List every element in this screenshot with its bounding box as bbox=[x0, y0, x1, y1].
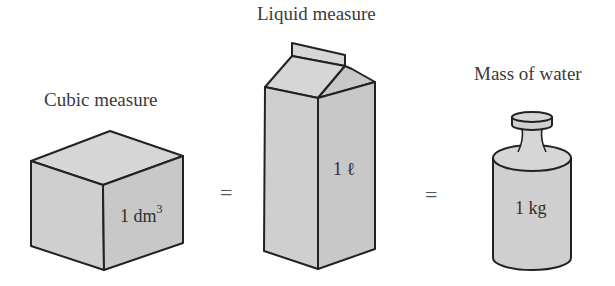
cube-value-text: 1 dm bbox=[120, 206, 157, 226]
cube-value-exponent: 3 bbox=[157, 202, 163, 216]
carton-title: Liquid measure bbox=[257, 3, 376, 25]
weight-illustration bbox=[493, 112, 571, 270]
weight-title: Mass of water bbox=[474, 63, 582, 85]
equals-sign-2: = bbox=[425, 182, 437, 208]
cube-value: 1 dm3 bbox=[120, 204, 163, 227]
figure: Cubic measure Liquid measure Mass of wat… bbox=[0, 0, 615, 286]
equals-sign-1: = bbox=[220, 180, 232, 206]
carton-illustration bbox=[264, 43, 375, 269]
cube-title: Cubic measure bbox=[44, 89, 157, 111]
illustrations bbox=[0, 0, 615, 286]
carton-left-face bbox=[264, 87, 318, 269]
weight-neck bbox=[518, 128, 546, 152]
cube-illustration bbox=[31, 131, 183, 270]
weight-value: 1 kg bbox=[515, 198, 547, 219]
carton-value: 1 ℓ bbox=[333, 159, 355, 180]
weight-knob-top bbox=[512, 112, 552, 122]
